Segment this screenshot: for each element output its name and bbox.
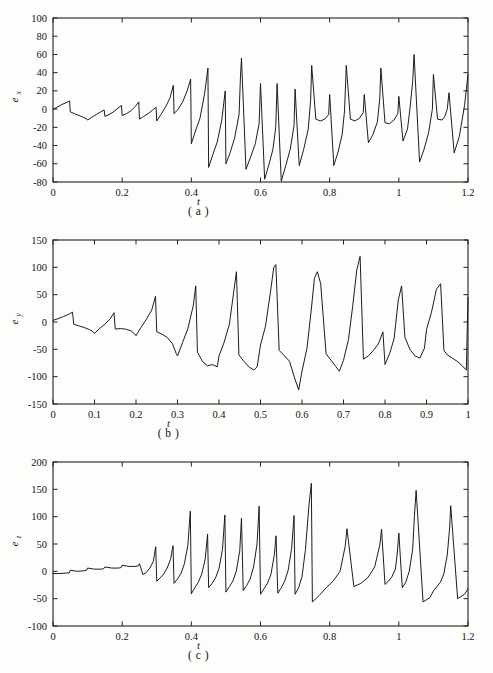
- panel-caption-b: ( b ): [0, 427, 415, 439]
- panel-caption-a: ( a ): [0, 205, 445, 217]
- y-tick-label: 100: [31, 262, 47, 273]
- y-axis-label-base: e: [8, 319, 20, 324]
- y-tick-label: 20: [37, 85, 48, 96]
- y-tick-label: -50: [33, 344, 47, 355]
- y-tick-label: 50: [37, 539, 48, 550]
- panel-b: 00.10.20.30.40.50.60.70.80.91-150-100-50…: [0, 222, 493, 447]
- y-tick-label: 60: [37, 49, 48, 60]
- y-axis-label-b: ey: [8, 313, 23, 325]
- y-tick-label: -20: [33, 122, 47, 133]
- figure-three-panel-timeseries: 00.20.40.60.811.2-80-60-40-2002040608010…: [0, 0, 493, 673]
- y-tick-label: -100: [28, 371, 47, 382]
- y-tick-label: 150: [31, 484, 47, 495]
- y-tick-label: -80: [33, 177, 47, 188]
- y-axis-label-subscript: y: [14, 313, 23, 318]
- y-axis-label-c: ez: [8, 536, 23, 547]
- y-tick-label: 0: [42, 317, 47, 328]
- y-axis-label-base: e: [8, 97, 20, 102]
- y-tick-label: 40: [37, 67, 48, 78]
- panel-a: 00.20.40.60.811.2-80-60-40-2002040608010…: [0, 0, 493, 225]
- y-tick-label: -40: [33, 140, 47, 151]
- y-tick-label: -60: [33, 158, 47, 169]
- y-tick-label: 80: [37, 31, 48, 42]
- x-tick-label: 1.2: [461, 187, 474, 198]
- y-axis-label-a: ex: [8, 91, 23, 103]
- y-tick-label: 0: [42, 104, 47, 115]
- x-tick-label: 0.9: [420, 409, 433, 420]
- y-tick-label: 0: [42, 566, 47, 577]
- y-tick-label: 150: [31, 235, 47, 246]
- data-line: [53, 483, 468, 602]
- panel-caption-c: ( c ): [0, 649, 445, 661]
- plot-c: 00.20.40.60.811.2-100-50050100150200ez: [0, 444, 493, 644]
- plot-frame: [53, 462, 468, 626]
- panel-c: 00.20.40.60.811.2-100-50050100150200ez t…: [0, 444, 493, 673]
- y-axis-label-base: e: [8, 541, 20, 546]
- y-tick-label: 200: [31, 457, 47, 468]
- data-line: [53, 256, 468, 389]
- data-line: [53, 54, 468, 181]
- plot-a: 00.20.40.60.811.2-80-60-40-2002040608010…: [0, 0, 493, 200]
- x-tick-label: 1.2: [461, 631, 474, 642]
- plot-b: 00.10.20.30.40.50.60.70.80.91-150-100-50…: [0, 222, 493, 422]
- y-tick-label: -50: [33, 593, 47, 604]
- y-axis-label-subscript: x: [14, 91, 23, 96]
- y-tick-label: -150: [28, 399, 47, 410]
- plot-frame: [53, 240, 468, 404]
- x-tick-label: 1: [465, 409, 470, 420]
- y-tick-label: 100: [31, 511, 47, 522]
- y-tick-label: 100: [31, 13, 47, 24]
- y-tick-label: -100: [28, 621, 47, 632]
- y-axis-label-subscript: z: [14, 536, 23, 540]
- plot-frame: [53, 18, 468, 182]
- y-tick-label: 50: [37, 289, 48, 300]
